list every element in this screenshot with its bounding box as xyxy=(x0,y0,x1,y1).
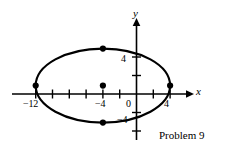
ellipse-figure: y x −12 −4 4 0 4 −4 Problem 9 xyxy=(0,0,239,148)
x-axis-label: x xyxy=(196,86,201,97)
x-axis-arrowhead xyxy=(186,90,194,98)
point-top-covertex xyxy=(100,46,106,52)
origin-label: 0 xyxy=(126,99,131,109)
point-bottom-covertex xyxy=(100,120,106,126)
y-axis-arrowhead xyxy=(133,18,141,26)
y-axis xyxy=(133,18,141,140)
y-tick-label-4: 4 xyxy=(121,54,126,64)
x-tick-label--4: −4 xyxy=(95,99,105,109)
x-tick-label-4: 4 xyxy=(164,99,169,109)
graph-canvas xyxy=(0,0,239,148)
point-center xyxy=(100,83,106,89)
y-tick-label--4: −4 xyxy=(117,115,127,125)
figure-caption: Problem 9 xyxy=(159,130,205,141)
marked-points xyxy=(33,46,174,126)
x-tick-label--12: −12 xyxy=(23,99,38,109)
point-left-vertex xyxy=(33,83,39,89)
point-right-vertex xyxy=(167,83,173,89)
y-axis-label: y xyxy=(133,8,138,19)
